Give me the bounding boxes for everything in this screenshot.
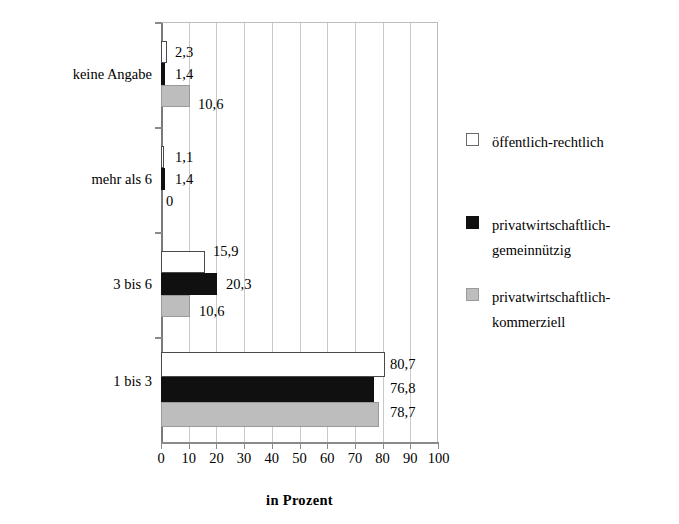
bar-value-mehr-als-6-kommerziell: 0 [166,193,173,209]
black-square-icon [466,216,479,229]
bar-value-mehr-als-6-gemeinnuetzig: 1,4 [175,171,193,187]
xtick-label-90: 90 [403,450,418,467]
bar-value-3-bis-6-oeffentlich-rechtlich: 15,9 [213,243,238,259]
xtick-mark-50 [300,443,301,449]
bar-mehr-als-6-oeffentlich-rechtlich [161,146,164,168]
white-square-icon [466,133,479,146]
legend-label-gemeinnuetzig-line2: gemeinnützig [492,238,676,263]
bar-value-keine-angabe-gemeinnuetzig: 1,4 [175,66,193,82]
legend-label-kommerziell-line2: kommerziell [492,310,676,335]
bar-3-bis-6-kommerziell [161,295,190,317]
bar-chart: keine Angabe mehr als 6 3 bis 6 1 bis 3 … [0,0,679,524]
bar-value-mehr-als-6-oeffentlich-rechtlich: 1,1 [175,149,193,165]
legend-item-gemeinnuetzig: privatwirtschaftlich- gemeinnützig [466,213,676,263]
xtick-label-30: 30 [237,450,252,467]
xtick-mark-0 [161,443,162,449]
bar-3-bis-6-oeffentlich-rechtlich [161,251,205,273]
xtick-mark-70 [355,443,356,449]
xtick-label-60: 60 [320,450,335,467]
bar-value-keine-angabe-kommerziell: 10,6 [198,96,223,112]
category-label-3-bis-6: 3 bis 6 [113,276,152,293]
xtick-mark-80 [383,443,384,449]
legend-item-kommerziell: privatwirtschaftlich- kommerziell [466,285,676,335]
bar-1-bis-3-gemeinnuetzig [161,377,374,402]
xtick-label-100: 100 [428,450,450,467]
bar-keine-angabe-kommerziell [161,85,190,107]
category-label-mehr-als-6: mehr als 6 [92,171,152,188]
bar-keine-angabe-oeffentlich-rechtlich [161,41,167,63]
xtick-label-70: 70 [348,450,363,467]
ytick-mark-1 [155,22,162,24]
xtick-label-40: 40 [265,450,280,467]
bar-keine-angabe-gemeinnuetzig [161,63,165,85]
category-label-keine-angabe: keine Angabe [73,66,152,83]
xtick-mark-100 [438,443,439,449]
bar-value-keine-angabe-oeffentlich-rechtlich: 2,3 [175,44,193,60]
ytick-mark-2 [155,127,162,129]
xtick-mark-40 [272,443,273,449]
legend: öffentlich-rechtlich privatwirtschaftlic… [466,130,676,357]
legend-label-oeffentlich-rechtlich: öffentlich-rechtlich [492,130,676,155]
ytick-mark-4 [155,337,162,339]
xtick-label-50: 50 [292,450,307,467]
bar-value-1-bis-3-oeffentlich-rechtlich: 80,7 [390,356,415,372]
xtick-mark-30 [244,443,245,449]
bar-3-bis-6-gemeinnuetzig [161,273,217,295]
xtick-label-10: 10 [181,450,196,467]
bar-1-bis-3-kommerziell [161,402,379,427]
xtick-label-80: 80 [375,450,390,467]
xtick-label-20: 20 [209,450,224,467]
bar-value-3-bis-6-gemeinnuetzig: 20,3 [226,276,251,292]
legend-label-kommerziell-line1: privatwirtschaftlich- [492,285,676,310]
xtick-mark-60 [327,443,328,449]
grey-square-icon [466,288,479,301]
legend-label-gemeinnuetzig-line1: privatwirtschaftlich- [492,213,676,238]
xtick-mark-90 [410,443,411,449]
legend-item-oeffentlich-rechtlich: öffentlich-rechtlich [466,130,676,155]
bar-mehr-als-6-gemeinnuetzig [161,168,165,190]
xtick-mark-20 [216,443,217,449]
bar-value-3-bis-6-kommerziell: 10,6 [199,303,224,319]
bar-value-1-bis-3-kommerziell: 78,7 [390,404,415,420]
x-axis-title: in Prozent [0,492,599,509]
xtick-label-0: 0 [157,450,164,467]
bar-1-bis-3-oeffentlich-rechtlich [161,352,385,377]
category-label-1-bis-3: 1 bis 3 [113,373,152,390]
bar-value-1-bis-3-gemeinnuetzig: 76,8 [390,380,415,396]
ytick-mark-3 [155,232,162,234]
xtick-mark-10 [189,443,190,449]
